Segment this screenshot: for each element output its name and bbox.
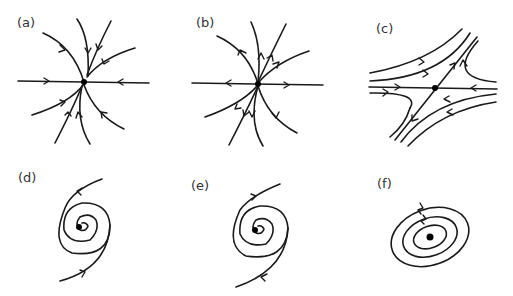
center-diagram [350,150,513,296]
panel-b-unstable-node: (b) [180,0,350,150]
panel-a-stable-node: (a) [0,0,180,150]
unstable-spiral-diagram [180,150,350,296]
panel-c-saddle-point: (c) [350,0,513,150]
panel-e-unstable-spiral: (e) [180,150,350,296]
stable-node-diagram [0,0,180,150]
panel-d-stable-spiral: (d) [0,150,180,296]
panel-f-center: (f) [350,150,513,296]
unstable-node-diagram [180,0,350,150]
stable-spiral-diagram [0,150,180,296]
saddle-point-diagram [350,0,513,150]
